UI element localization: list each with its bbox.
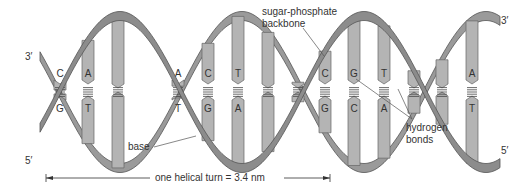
label-bonds: bonds [406,134,433,145]
base-letter-bottom: G [204,103,212,114]
label-5-prime-left: 5′ [25,155,32,166]
base-pair: TA [378,26,390,158]
base-letter-bottom: T [469,103,475,114]
base-letter-bottom: T [85,103,91,114]
base-letter-top: T [235,68,241,79]
base-letter-bottom: G [321,103,329,114]
arrowhead-left-icon [46,176,53,180]
label-3-prime-right: 3′ [501,15,508,26]
base-pair [262,32,274,151]
label-backbone: backbone [262,18,305,29]
base-letter-bottom: A [235,103,242,114]
base-bottom [319,96,331,133]
dna-helix-diagram: CGATATCGTACGGCTAAT 3′ 5′ 3′ 5′ sugar-pho… [0,0,530,183]
label-sugar-phosphate: sugar-phosphate [262,6,337,17]
base-bottom [408,92,420,113]
base-top [436,60,448,88]
label-helical-turn: one helical turn = 3.4 nm [155,172,265,183]
base-bottom [112,92,124,168]
base-letter-top: A [85,68,92,79]
base-letter-top: A [469,68,476,79]
base-letter-bottom: T [175,103,181,114]
base-pair [112,16,124,168]
base-letter-bottom: G [56,103,64,114]
base-leader-line [154,136,196,147]
base-pairs: CGATATCGTACGGCTAAT [54,16,478,168]
base-pair: GC [348,19,360,166]
base-pair: AT [82,40,94,143]
base-pair: CG [202,43,214,140]
base-pair: TA [232,16,244,167]
base-letter-top: G [350,68,358,79]
arrowhead-right-icon [323,176,330,180]
base-letter-top: T [381,68,387,79]
base-letter-top: C [204,68,211,79]
base-letter-bottom: A [381,103,388,114]
backbone-leader-line [303,28,324,56]
base-letter-top: C [56,68,63,79]
base-pair: AT [466,21,478,163]
base-top [112,16,124,88]
label-hydrogen: hydrogen [406,122,448,133]
base-letter-top: C [321,68,328,79]
base-letter-bottom: C [350,103,357,114]
label-3-prime-left: 3′ [25,51,32,62]
label-base: base [128,141,150,152]
label-5-prime-right: 5′ [501,145,508,156]
base-top [262,32,274,88]
